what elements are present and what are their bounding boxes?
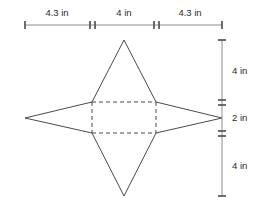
- dimension-label-left-slant: 4.3 in: [45, 7, 68, 18]
- dimension-label-top-triangle: 4 in: [232, 65, 247, 76]
- geometry-figure: 4.3 in 4 in 4.3 in 4 in 2 in 4 in: [0, 0, 261, 203]
- dimension-label-square-height: 2 in: [232, 112, 247, 123]
- dimension-label-right-slant: 4.3 in: [178, 7, 201, 18]
- dimension-label-bottom-triangle: 4 in: [232, 160, 247, 171]
- dimension-label-square-width: 4 in: [116, 7, 131, 18]
- star-net-outline: [25, 40, 222, 196]
- net-diagram-svg: 4.3 in 4 in 4.3 in 4 in 2 in 4 in: [0, 0, 261, 203]
